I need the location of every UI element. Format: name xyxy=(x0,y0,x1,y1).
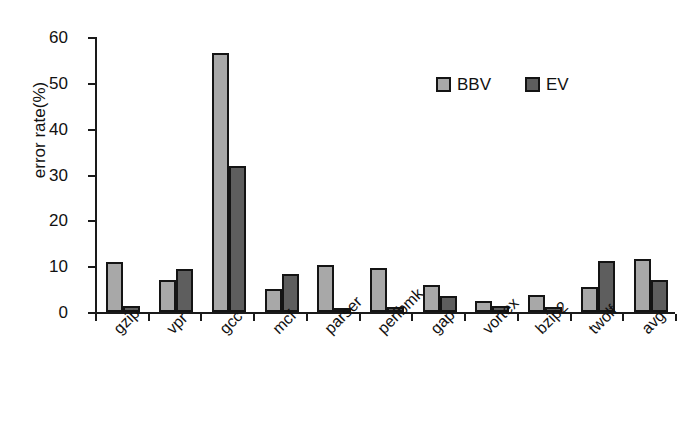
x-tick xyxy=(411,314,413,321)
x-tick xyxy=(517,314,519,321)
x-tick xyxy=(675,314,677,321)
bar-mcf-bbv xyxy=(265,289,282,312)
bar-gcc-bbv xyxy=(212,53,229,312)
bar-gzip-bbv xyxy=(106,262,123,312)
bar-gcc-ev xyxy=(229,166,246,312)
legend-label-bbv: BBV xyxy=(457,76,491,93)
chart-legend: BBV EV xyxy=(436,76,569,93)
y-tick xyxy=(88,37,95,39)
legend-label-ev: EV xyxy=(546,76,569,93)
legend-swatch-bbv xyxy=(436,77,451,92)
bar-vpr-bbv xyxy=(159,280,176,312)
x-tick xyxy=(570,314,572,321)
y-tick-label: 20 xyxy=(22,212,68,229)
bar-mcf-ev xyxy=(282,274,299,312)
x-tick xyxy=(359,314,361,321)
y-tick-label: 60 xyxy=(22,29,68,46)
x-tick xyxy=(464,314,466,321)
bar-chart: error rate(%) 0102030405060 gzipvprgccmc… xyxy=(0,0,695,432)
y-tick-label: 0 xyxy=(22,304,68,321)
y-axis-line xyxy=(95,37,97,314)
y-tick-label: 50 xyxy=(22,75,68,92)
bar-bzip2-bbv xyxy=(528,295,545,312)
y-tick-label: 40 xyxy=(22,121,68,138)
x-tick xyxy=(622,314,624,321)
x-tick xyxy=(148,314,150,321)
y-tick xyxy=(88,129,95,131)
y-tick xyxy=(88,175,95,177)
x-tick xyxy=(253,314,255,321)
bar-perlbmk-bbv xyxy=(370,268,387,312)
bar-parser-bbv xyxy=(317,265,334,312)
x-tick xyxy=(200,314,202,321)
y-tick xyxy=(88,312,95,314)
y-tick xyxy=(88,220,95,222)
legend-swatch-ev xyxy=(525,77,540,92)
bar-vortex-bbv xyxy=(475,301,492,312)
legend-item-ev: EV xyxy=(525,76,569,93)
plot-area: 0102030405060 xyxy=(95,37,675,313)
bar-avg-ev xyxy=(651,280,668,312)
y-tick-label: 30 xyxy=(22,167,68,184)
x-tick xyxy=(95,314,97,321)
y-tick xyxy=(88,266,95,268)
y-tick xyxy=(88,83,95,85)
legend-item-bbv: BBV xyxy=(436,76,491,93)
x-tick xyxy=(306,314,308,321)
bar-avg-bbv xyxy=(634,259,651,312)
bar-twolf-bbv xyxy=(581,287,598,312)
y-tick-label: 10 xyxy=(22,258,68,275)
bar-vpr-ev xyxy=(176,269,193,312)
